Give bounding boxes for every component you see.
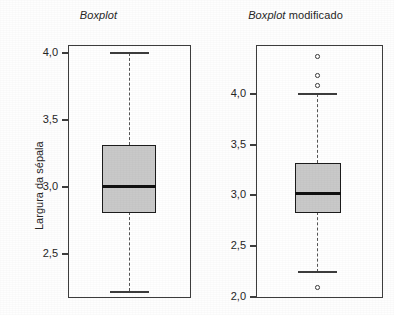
whisker-cap-upper-right [298,93,337,95]
whisker-upper-left [129,53,130,145]
whisker-cap-upper-left [110,52,149,54]
whisker-upper-right [317,94,318,163]
outlier-high-3 [315,83,320,88]
whisker-cap-lower-left [110,291,149,293]
boxplot-figure: Boxplot Largura da sépala 4,0 3,5 3,0 2,… [0,0,394,315]
median-left [102,185,156,188]
boxplot-right [197,0,394,315]
panel-boxplot-modificado: Boxplot modificado Largura da sépala 4,0… [197,0,394,315]
outlier-high-1 [315,54,320,59]
outlier-high-2 [315,73,320,78]
whisker-lower-right [317,212,318,272]
box-right [295,163,341,213]
whisker-lower-left [129,212,130,291]
outlier-low-1 [315,285,320,290]
whisker-cap-lower-right [298,271,337,273]
median-right [295,192,341,195]
boxplot-left [0,0,197,315]
box-left [102,145,156,213]
panel-boxplot: Boxplot Largura da sépala 4,0 3,5 3,0 2,… [0,0,197,315]
